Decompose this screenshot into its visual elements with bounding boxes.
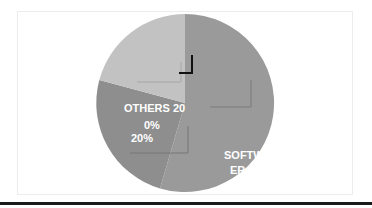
slice-label-others: OTHERS 20 — [124, 103, 185, 114]
slice-label-percent-b: 20% — [131, 133, 153, 144]
slice-label-software-line2: ER — [230, 165, 245, 176]
pie-chart — [0, 0, 372, 208]
slice-label-software-line1: SOFTW — [224, 150, 264, 161]
bottom-rule — [0, 202, 372, 205]
slice-label-percent-a: 0% — [144, 120, 160, 131]
